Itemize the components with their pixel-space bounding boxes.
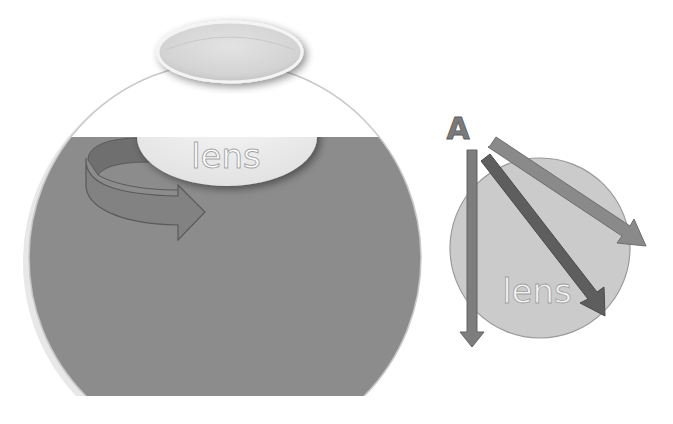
ray-diagram: A lens <box>446 111 646 347</box>
point-a-label: A <box>446 111 470 146</box>
lens-label-right: lens <box>502 271 572 311</box>
anterior-chamber <box>0 0 673 137</box>
cornea <box>158 22 302 82</box>
diagram-svg: lens A lens <box>0 0 673 424</box>
lens-label: lens <box>191 136 261 176</box>
diagram-canvas: lens A lens <box>0 0 673 424</box>
